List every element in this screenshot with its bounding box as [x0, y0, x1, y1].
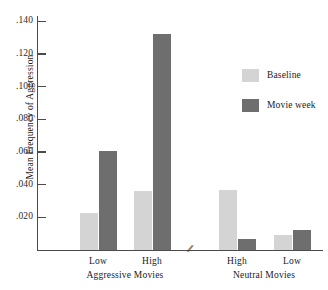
- bar-movie-week: [153, 34, 171, 250]
- legend-swatch-icon: [242, 99, 259, 112]
- x-axis-line: [37, 250, 323, 251]
- bar-baseline: [80, 213, 98, 250]
- bar-chart: Mean Frequency of Aggression .020.040.06…: [0, 0, 328, 290]
- y-axis-tick-label: .040: [0, 180, 33, 190]
- bar-baseline: [134, 191, 152, 250]
- y-axis-tick: [37, 119, 46, 120]
- legend-item-baseline: Baseline: [242, 68, 316, 82]
- y-axis-tick-label: .060: [0, 147, 33, 157]
- x-axis-category-label: Low: [68, 256, 128, 267]
- y-axis-tick: [37, 151, 46, 152]
- y-axis-tick-label: .080: [0, 114, 33, 124]
- legend-label: Baseline: [267, 70, 301, 81]
- legend: Baseline Movie week: [242, 68, 316, 128]
- y-axis-tick-label: .120: [0, 49, 33, 59]
- y-axis-tick: [37, 21, 46, 22]
- y-axis-tick-label: .140: [0, 16, 33, 26]
- bar-baseline: [274, 235, 292, 250]
- legend-item-movie-week: Movie week: [242, 98, 316, 112]
- y-axis-tick: [37, 184, 46, 185]
- y-axis-tick: [37, 217, 46, 218]
- x-axis-group-label: Neutral Movies: [204, 270, 324, 281]
- y-axis-tick: [37, 86, 46, 87]
- y-axis-tick: [37, 53, 46, 54]
- y-axis-tick-label: .100: [0, 82, 33, 92]
- bar-movie-week: [238, 239, 256, 250]
- x-axis-category-label: Low: [262, 256, 322, 267]
- x-axis-group-label: Aggressive Movies: [65, 270, 185, 281]
- x-axis-category-label: High: [207, 256, 267, 267]
- y-axis-tick-label: .020: [0, 212, 33, 222]
- x-axis-category-label: High: [122, 256, 182, 267]
- bar-movie-week: [293, 230, 311, 250]
- legend-label: Movie week: [267, 100, 316, 111]
- bar-movie-week: [99, 151, 117, 250]
- bar-baseline: [219, 190, 237, 250]
- axis-break-icon: //: [186, 240, 203, 259]
- legend-swatch-icon: [242, 69, 259, 82]
